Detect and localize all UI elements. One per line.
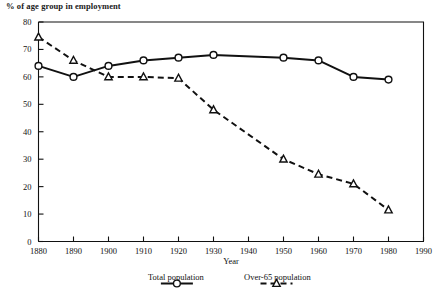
x-tick-label: 1970	[345, 246, 362, 256]
legend-marker-1	[173, 280, 180, 287]
x-tick-label: 1980	[380, 246, 397, 256]
data-point-marker	[385, 76, 392, 83]
data-point-marker	[350, 180, 357, 187]
data-point-marker	[105, 73, 112, 80]
y-tick-label: 20	[23, 182, 32, 192]
y-tick-label: 40	[23, 127, 32, 137]
x-tick-label: 1930	[205, 246, 222, 256]
data-point-marker	[315, 57, 322, 64]
y-tick-label: 50	[23, 99, 32, 109]
x-tick-label: 1990	[415, 246, 432, 256]
x-tick-label: 1950	[275, 246, 292, 256]
x-tick-label: 1940	[240, 246, 257, 256]
data-point-marker	[70, 73, 77, 80]
x-tick-group	[39, 237, 424, 242]
x-tick-label: 1910	[135, 246, 152, 256]
y-tick-group	[39, 22, 44, 242]
x-tick-label: 1960	[310, 246, 327, 256]
data-point-marker	[385, 206, 392, 213]
data-point-marker	[35, 63, 42, 70]
y-tick-label-group: 01020304050607080	[23, 17, 32, 247]
y-tick-label: 30	[23, 154, 32, 164]
y-tick-label: 80	[23, 17, 32, 27]
data-point-marker	[105, 63, 112, 70]
data-point-marker	[35, 33, 42, 40]
series-line	[39, 37, 389, 210]
employment-line-chart: 01020304050607080 1880189019001910192019…	[0, 0, 434, 292]
data-point-marker	[280, 155, 287, 162]
x-axis-title: Year	[223, 256, 239, 266]
data-point-marker	[280, 54, 287, 61]
data-point-marker	[210, 52, 217, 59]
x-tick-label: 1880	[30, 246, 47, 256]
data-point-marker	[70, 56, 77, 63]
x-tick-label-group: 1880189019001910192019301940195019601970…	[30, 246, 432, 256]
series-1	[35, 52, 392, 83]
y-tick-label: 70	[23, 44, 32, 54]
data-point-marker	[350, 73, 357, 80]
x-tick-label: 1920	[170, 246, 187, 256]
data-point-marker	[140, 73, 147, 80]
y-tick-label: 10	[23, 209, 32, 219]
data-point-marker	[175, 74, 182, 81]
chart-figure: % of age group in employment 01020304050…	[0, 0, 434, 292]
data-point-marker	[315, 170, 322, 177]
series-layer	[35, 33, 392, 213]
data-point-marker	[140, 57, 147, 64]
chart-legend: Total populationOver-65 population	[148, 272, 311, 287]
x-tick-label: 1900	[100, 246, 117, 256]
x-tick-label: 1890	[65, 246, 82, 256]
y-tick-label: 60	[23, 72, 32, 82]
data-point-marker	[175, 54, 182, 61]
series-2	[35, 33, 392, 213]
